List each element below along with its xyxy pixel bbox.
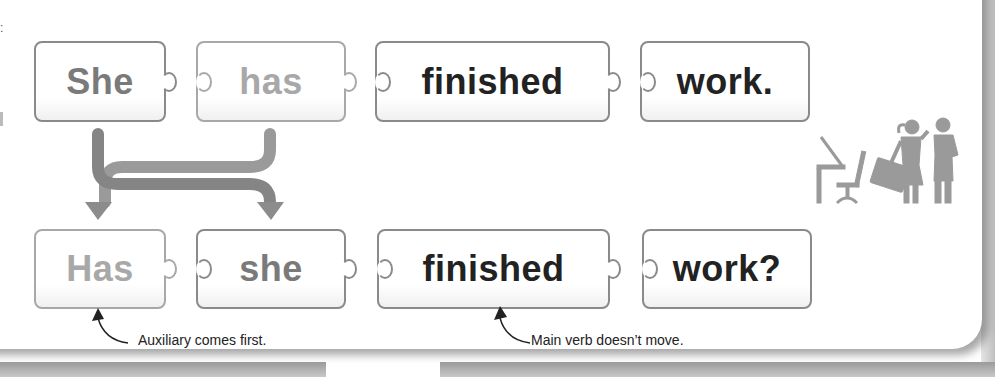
bottom-strip-right xyxy=(440,362,995,377)
puzzle-socket xyxy=(377,259,393,279)
question-piece-she: she xyxy=(196,229,346,309)
word: work? xyxy=(673,248,782,290)
statement-piece-she: She xyxy=(34,41,166,122)
question-piece-work: work? xyxy=(642,229,812,309)
word: work. xyxy=(677,61,774,103)
word: has xyxy=(239,61,303,103)
puzzle-socket xyxy=(196,259,212,279)
word: she xyxy=(239,248,303,290)
puzzle-socket xyxy=(640,72,656,92)
statement-piece-work: work. xyxy=(640,41,810,122)
word: She xyxy=(66,61,134,103)
puzzle-knob xyxy=(341,72,357,92)
annotation-auxiliary: Auxiliary comes first. xyxy=(138,332,266,348)
puzzle-knob xyxy=(161,72,177,92)
word: finished xyxy=(422,248,564,290)
panel-edge xyxy=(981,0,995,377)
word: finished xyxy=(421,61,563,103)
left-edge-mark: : xyxy=(0,22,6,34)
question-piece-finished: finished xyxy=(377,229,610,309)
statement-piece-has: has xyxy=(196,41,346,122)
puzzle-knob xyxy=(605,72,621,92)
puzzle-knob xyxy=(161,259,177,279)
left-edge-mark xyxy=(0,112,3,126)
puzzle-socket xyxy=(642,259,658,279)
puzzle-socket xyxy=(375,72,391,92)
bottom-strip-left xyxy=(0,362,326,377)
swap-arrows xyxy=(60,122,320,222)
puzzle-knob xyxy=(605,259,621,279)
puzzle-knob xyxy=(341,259,357,279)
annotation-main-verb: Main verb doesn’t move. xyxy=(531,332,684,348)
question-piece-has: Has xyxy=(34,229,166,309)
office-workers-icon xyxy=(815,115,960,210)
statement-piece-finished: finished xyxy=(375,41,610,122)
puzzle-socket xyxy=(196,72,212,92)
annotation-arrow-auxiliary xyxy=(88,306,138,356)
word: Has xyxy=(66,248,134,290)
